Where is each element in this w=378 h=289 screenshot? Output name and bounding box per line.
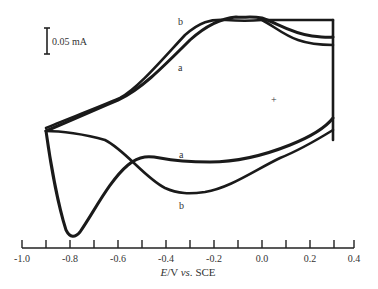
curve-b-label-bottom: b: [179, 200, 184, 211]
x-tick-label: -0.6: [110, 253, 126, 264]
x-tick-label: 0.0: [256, 253, 269, 264]
x-axis-title-v: /V: [167, 266, 181, 278]
curve-b: [46, 20, 333, 193]
scale-bar-label: 0.05 mA: [52, 36, 88, 47]
scale-bar: 0.05 mA: [44, 28, 88, 54]
x-tick-label: 0.4: [348, 253, 361, 264]
x-tick-label: -0.4: [158, 253, 174, 264]
x-tick-labels: -1.0 -0.8 -0.6 -0.4 -0.2 0.0 0.2 0.4: [14, 253, 360, 264]
x-axis-title-ref: SCE: [193, 266, 216, 278]
x-axis: [22, 240, 354, 248]
curve-a: [46, 17, 333, 236]
x-tick-label: 0.2: [304, 253, 317, 264]
x-tick-label: -0.8: [62, 253, 78, 264]
plus-marker: +: [271, 94, 277, 105]
cyclic-voltammogram: 0.05 mA b a a b + -1.0 -0.8: [0, 0, 378, 289]
curve-b-label-top: b: [178, 16, 183, 27]
x-tick-label: -1.0: [14, 253, 30, 264]
curve-a-label-top: a: [178, 62, 183, 73]
x-tick-label: -0.2: [206, 253, 222, 264]
x-axis-title-vs: vs.: [181, 266, 193, 278]
curve-a-label-bottom: a: [179, 149, 184, 160]
x-axis-title: E/V vs. SCE: [159, 266, 215, 278]
